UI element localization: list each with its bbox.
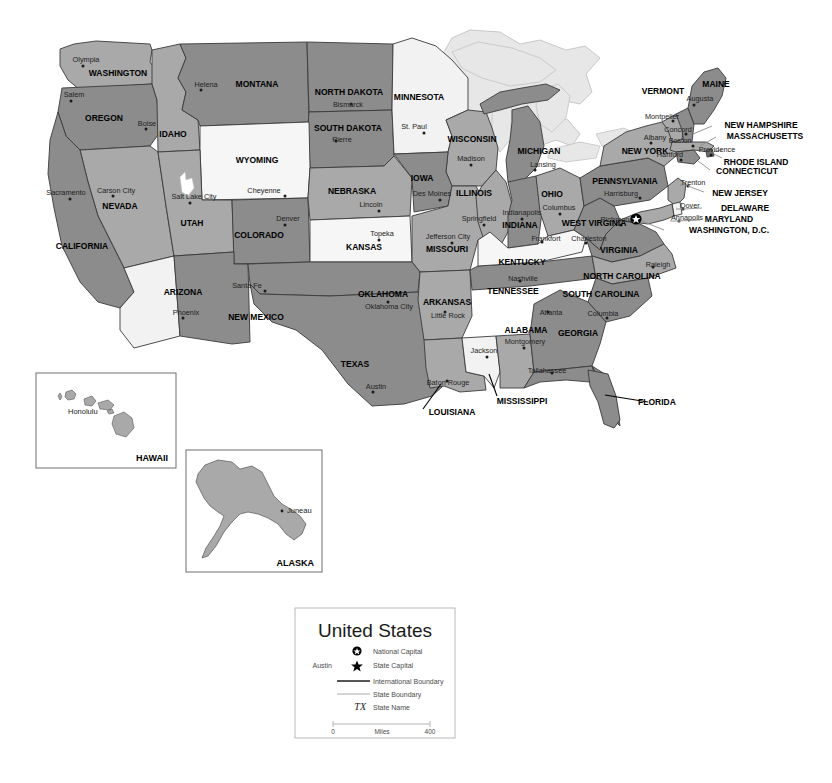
state-name-label: IOWA [411,173,434,183]
state-capital-label: Hartford [657,150,683,159]
capital-dot [483,224,486,227]
scale-max-label: 400 [425,728,436,735]
legend-sample-austin: Austin [313,662,333,669]
alaska-capital-label: Juneau [287,506,312,515]
state-name-label: ARKANSAS [423,297,472,307]
capital-dot [82,65,85,68]
state-name-label: OKLAHOMA [358,289,408,299]
capital-dot [284,224,287,227]
state-arizona[interactable] [120,256,180,348]
hawaii-capital-label: Honolulu [68,407,98,416]
state-name-label: CONNECTICUT [716,166,779,176]
state-name-label: GEORGIA [558,328,598,338]
state-capital-label: Charleston [571,234,606,243]
state-name-label: CALIFORNIA [56,241,108,251]
state-kansas[interactable] [310,216,412,262]
state-name-label: OREGON [85,113,123,123]
state-name-label: TEXAS [341,359,370,369]
state-name-label: OHIO [541,189,563,199]
state-name-label: NORTH CAROLINA [583,271,660,281]
state-capital-label: Baton Rouge [427,378,470,387]
state-capital-label: Columbus [543,203,576,212]
state-capital-label: Boise [138,119,156,128]
state-name-label: WASHINGTON, D.C. [689,225,769,235]
state-capital-label: Raleigh [646,260,671,269]
state-capital-label: Santa Fe [232,281,262,290]
state-name-label: ARIZONA [164,287,203,297]
state-name-label: TENNESSEE [487,286,539,296]
state-name-label: WYOMING [236,155,279,165]
state-name-label: NEBRASKA [328,186,376,196]
scale-unit-label: Miles [374,728,390,735]
state-name-label: COLORADO [234,230,284,240]
state-capital-label: Salt Lake City [171,192,216,201]
state-name-label: MISSISSIPPI [497,396,548,406]
state-name-label: NEVADA [102,201,137,211]
capital-dot [486,356,489,359]
state-capital-label: Phoenix [173,308,200,317]
state-capital-label: Oklahoma City [365,302,413,311]
state-name-label: ALABAMA [505,325,548,335]
state-capital-label: Richmond [601,215,634,224]
state-name-label: VERMONT [642,86,685,96]
state-capital-label: Springfield [462,214,496,223]
state-name-label: VIRGINIA [600,245,638,255]
legend-label-international-boundary: International Boundary [373,678,444,686]
state-capital-label: Indianapolis [503,208,542,217]
hawaii-inset: Honolulu HAWAII [36,373,176,468]
state-capital-label: Nashville [508,274,538,283]
state-name-label: MINNESOTA [394,92,444,102]
capital-dot [69,198,72,201]
state-capital-label: Olympia [73,55,101,64]
capital-dot [523,347,526,350]
legend-label-state-capital: State Capital [373,662,414,670]
state-new-mexico[interactable] [174,252,250,344]
state-name-label: NEW MEXICO [228,312,284,322]
state-florida-peninsula[interactable] [588,370,620,428]
scale-min-label: 0 [331,728,335,735]
state-capital-label: Denver [276,214,300,223]
state-capital-label: Madison [457,154,485,163]
state-capital-label: Frankfort [531,234,560,243]
state-capital-label: Bismarck [333,100,363,109]
state-capital-label: Carson City [97,186,135,195]
leader-new-hampshire [693,126,712,134]
state-capital-label: Pierre [332,135,351,144]
state-capital-label: Concord [664,125,692,134]
state-name-label: NEW JERSEY [712,188,768,198]
legend-label-state-boundary: State Boundary [373,691,422,699]
state-capital-label: Little Rock [431,311,465,320]
capital-dot [423,132,426,135]
capital-dot [264,290,267,293]
state-name-label: IDAHO [159,129,187,139]
state-capital-label: Dover [680,201,700,210]
state-name-label: MICHIGAN [518,146,561,156]
state-capital-label: Sacramento [46,188,85,197]
capital-dot [284,195,287,198]
state-capital-label: Lincoln [359,200,382,209]
state-capital-label: Columbia [588,309,620,318]
alaska-inset-label: ALASKA [277,558,315,568]
state-capital-label: Salem [64,90,85,99]
legend-label-state-name: State Name [373,704,410,711]
state-capital-label: Lansing [530,160,556,169]
leader-rhode-island [714,154,722,158]
capital-dot [559,213,562,216]
state-name-label: SOUTH CAROLINA [563,289,640,299]
state-name-label: FLORIDA [638,397,676,407]
legend: United States National Capital Austin St… [295,608,455,738]
state-capital-label: Albany [644,133,667,142]
capital-dot [189,202,192,205]
state-capital-label: Boston [669,136,692,145]
legend-title: United States [318,620,432,641]
state-name-label: WASHINGTON [89,68,147,78]
us-map-figure: WASHINGTONOlympiaOREGONSalemIDAHOBoiseMO… [0,0,832,783]
state-name-label: WISCONSIN [447,134,496,144]
state-capital-label: Cheyenne [247,186,280,195]
capital-dot [692,145,695,148]
alaska-inset: Juneau ALASKA [186,450,322,572]
capital-dot [378,210,381,213]
state-name-label: KANSAS [346,242,382,252]
state-washington[interactable] [60,41,156,90]
capital-dot [70,100,73,103]
